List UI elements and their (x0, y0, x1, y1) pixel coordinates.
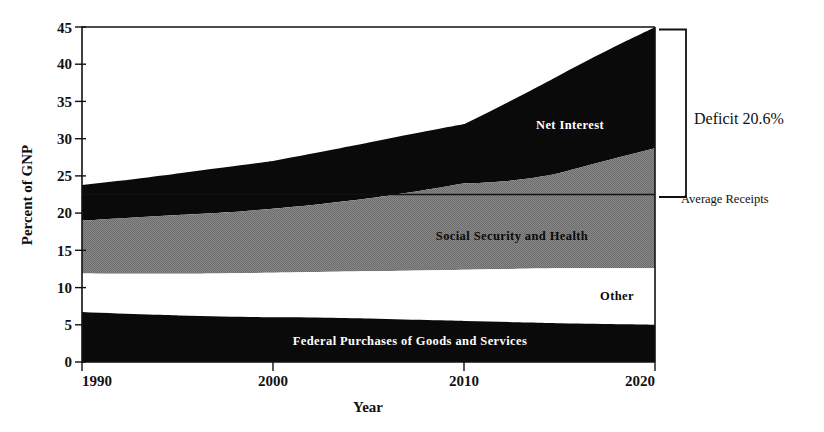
deficit-annotation-label: Deficit 20.6% (694, 110, 784, 127)
x-axis-ticks (82, 362, 655, 371)
x-tick-label-2010: 2010 (449, 373, 479, 389)
x-tick-label-1990: 1990 (82, 373, 112, 389)
y-tick-label-15: 15 (57, 243, 72, 259)
series-label-other: Other (600, 289, 634, 303)
y-tick-label-45: 45 (57, 20, 72, 36)
series-label-federal-purchases: Federal Purchases of Goods and Services (293, 334, 527, 348)
y-tick-label-0: 0 (65, 354, 73, 370)
y-axis-title: Percent of GNP (19, 145, 35, 246)
average-receipts-annotation-label: Average Receipts (681, 192, 769, 206)
stacked-area-chart: 0 5 10 15 20 25 30 35 40 45 1990 2000 20… (0, 0, 824, 432)
y-tick-label-10: 10 (57, 280, 72, 296)
y-tick-label-35: 35 (57, 94, 72, 110)
deficit-bracket (659, 30, 686, 198)
y-tick-label-20: 20 (57, 205, 72, 221)
series-label-social-security-health: Social Security and Health (436, 229, 588, 243)
y-tick-label-40: 40 (57, 56, 72, 72)
y-tick-label-5: 5 (65, 317, 73, 333)
y-tick-label-30: 30 (57, 131, 72, 147)
series-label-net-interest: Net Interest (536, 118, 605, 132)
x-tick-label-2020: 2020 (625, 373, 655, 389)
y-tick-label-25: 25 (57, 168, 72, 184)
x-axis-title: Year (353, 399, 383, 415)
chart-figure: 0 5 10 15 20 25 30 35 40 45 1990 2000 20… (0, 0, 824, 432)
x-tick-label-2000: 2000 (258, 373, 288, 389)
